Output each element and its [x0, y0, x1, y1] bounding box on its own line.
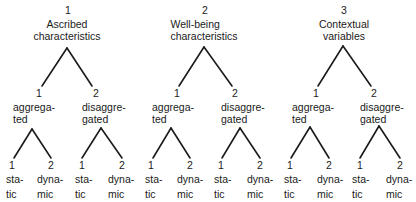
root-title: Well-being characteristics	[170, 18, 237, 42]
root-title-line: Ascribed	[33, 18, 100, 30]
root-title-line: characteristics	[170, 30, 237, 42]
branch-number: 2	[93, 87, 99, 99]
leaf-label: dyna- mic	[37, 173, 63, 200]
branch-label-line: aggrega-	[152, 101, 194, 113]
edge	[82, 128, 101, 158]
leaf-label-line: tic	[214, 188, 232, 200]
branch-label: aggrega- ted	[13, 101, 55, 125]
leaf-number: 2	[257, 159, 263, 171]
branch-number: 2	[371, 87, 377, 99]
root-title-line: variables	[319, 30, 369, 42]
root-title-line: Contextual	[319, 18, 369, 30]
branch-label: aggrega- ted	[152, 101, 194, 125]
leaf-label: dyna- mic	[108, 173, 134, 200]
leaf-label: dyna- mic	[177, 173, 203, 200]
edge	[171, 128, 190, 158]
branch-label: disaggre- gated	[221, 101, 265, 125]
branch-number: 1	[36, 87, 42, 99]
edge	[67, 48, 92, 86]
root-number: 3	[341, 4, 347, 16]
edge	[179, 47, 204, 86]
leaf-number: 1	[287, 159, 293, 171]
branch-label: disaggre- gated	[360, 101, 404, 125]
branch-label: disaggre- gated	[82, 101, 126, 125]
leaf-number: 2	[187, 159, 193, 171]
leaf-label-line: mic	[177, 188, 203, 200]
leaf-number: 2	[397, 159, 403, 171]
leaf-number: 1	[9, 159, 15, 171]
edge	[360, 126, 379, 158]
leaf-label-line: dyna-	[177, 173, 203, 185]
leaf-number: 2	[326, 159, 332, 171]
edge	[240, 128, 260, 158]
leaf-label-line: tic	[75, 188, 93, 200]
leaf-label-line: mic	[386, 188, 412, 200]
leaf-label: sta- tic	[284, 173, 302, 200]
branch-number: 2	[232, 87, 238, 99]
leaf-label-line: sta-	[145, 173, 163, 185]
leaf-label-line: sta-	[214, 173, 232, 185]
branch-label-line: gated	[82, 113, 126, 125]
root-title-line: characteristics	[33, 30, 100, 42]
edge	[42, 48, 67, 86]
leaf-label-line: mic	[317, 188, 343, 200]
leaf-label-line: tic	[145, 188, 163, 200]
leaf-label-line: mic	[108, 188, 134, 200]
leaf-number: 1	[148, 159, 154, 171]
leaf-label: sta- tic	[6, 173, 24, 200]
edge	[379, 126, 400, 158]
leaf-label: sta- tic	[75, 173, 93, 200]
branch-label-line: ted	[13, 113, 55, 125]
branch-label: aggrega- ted	[292, 101, 334, 125]
edge	[222, 128, 240, 158]
leaf-label-line: tic	[352, 188, 370, 200]
edge	[291, 127, 310, 158]
edge	[153, 128, 171, 158]
branch-label-line: disaggre-	[82, 101, 126, 113]
leaf-label-line: dyna-	[108, 173, 134, 185]
leaf-number: 1	[357, 159, 363, 171]
leaf-label-line: sta-	[6, 173, 24, 185]
branch-label-line: gated	[360, 113, 404, 125]
branch-label-line: disaggre-	[360, 101, 404, 113]
branch-label-line: ted	[152, 113, 194, 125]
leaf-label-line: dyna-	[317, 173, 343, 185]
branch-number: 1	[313, 87, 319, 99]
edge	[101, 128, 122, 158]
leaf-label: sta- tic	[145, 173, 163, 200]
leaf-label: dyna- mic	[317, 173, 343, 200]
branch-number: 1	[174, 87, 180, 99]
branch-label-line: aggrega-	[292, 101, 334, 113]
leaf-label-line: tic	[6, 188, 24, 200]
branch-label-line: aggrega-	[13, 101, 55, 113]
leaf-number: 1	[79, 159, 85, 171]
leaf-number: 1	[218, 159, 224, 171]
leaf-label: sta- tic	[352, 173, 370, 200]
root-title: Ascribed characteristics	[33, 18, 100, 42]
edge	[318, 46, 343, 86]
leaf-number: 2	[119, 159, 125, 171]
edge	[310, 127, 329, 158]
leaf-label: dyna- mic	[247, 173, 273, 200]
edge	[204, 47, 232, 86]
leaf-label-line: tic	[284, 188, 302, 200]
branch-label-line: ted	[292, 113, 334, 125]
leaf-label: dyna- mic	[386, 173, 412, 200]
leaf-number: 2	[48, 159, 54, 171]
leaf-label-line: sta-	[352, 173, 370, 185]
root-title-line: Well-being	[170, 18, 237, 30]
branch-label-line: disaggre-	[221, 101, 265, 113]
leaf-label-line: dyna-	[386, 173, 412, 185]
edge	[343, 46, 371, 86]
classification-tree-diagram: 1 Ascribed characteristics 1 2 aggrega- …	[0, 0, 416, 202]
leaf-label: sta- tic	[214, 173, 232, 200]
leaf-label-line: dyna-	[247, 173, 273, 185]
branch-label-line: gated	[221, 113, 265, 125]
root-number: 2	[202, 4, 208, 16]
root-number: 1	[65, 4, 71, 16]
leaf-label-line: mic	[37, 188, 63, 200]
leaf-label-line: sta-	[284, 173, 302, 185]
leaf-label-line: sta-	[75, 173, 93, 185]
root-title: Contextual variables	[319, 18, 369, 42]
leaf-label-line: mic	[247, 188, 273, 200]
